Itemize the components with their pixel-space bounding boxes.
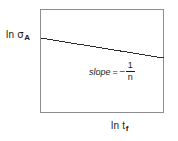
y-axis-label-subscript: A — [24, 33, 30, 42]
x-axis-label: ln tf — [111, 120, 129, 134]
slope-annotation: slope = – 1 n — [89, 61, 135, 82]
slope-annotation-word: slope — [89, 67, 113, 77]
sigma-symbol: σ — [17, 29, 24, 40]
slope-fraction: 1 n — [126, 61, 135, 82]
x-axis-label-prefix: ln t — [111, 120, 125, 131]
y-axis-label: ln σA — [6, 29, 30, 43]
y-axis-label-prefix: ln — [6, 29, 17, 40]
slope-annotation-equals: = — [113, 67, 120, 77]
fraction-numerator: 1 — [128, 61, 133, 70]
fraction-denominator: n — [128, 73, 133, 82]
fatigue-schematic-plot: ln σA ln tf slope = – 1 n — [0, 0, 178, 141]
x-axis-label-subscript: f — [125, 124, 128, 133]
